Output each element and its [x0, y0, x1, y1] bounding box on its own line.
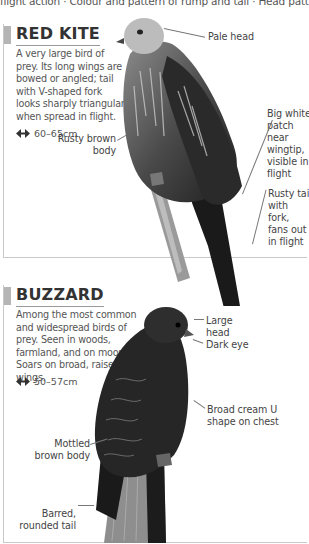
annotation-mottled-body: Mottled brown body [24, 438, 90, 462]
annotation-rusty-brown-body: Rusty brown body [56, 133, 116, 157]
annotation-large-head: Large head [206, 315, 236, 339]
species-title: BUZZARD [16, 285, 104, 307]
annotation-dark-eye: Dark eye [206, 339, 249, 351]
annotation-rusty-tail: Rusty tail with fork, fans out in flight [268, 188, 309, 248]
wingspan-value: 50–57cm [34, 376, 77, 387]
species-title: RED KITE [16, 24, 100, 46]
section-marker [4, 26, 11, 44]
leader-line [194, 319, 204, 320]
annotation-cream-u-shape: Broad cream U shape on chest [207, 404, 307, 428]
red-kite-illustration [112, 16, 262, 306]
annotation-barred-tail: Barred, rounded tail [14, 508, 76, 532]
wingspan-size: 50–57cm [16, 376, 77, 387]
wingspan-arrows-icon [16, 377, 30, 386]
buzzard-panel: BUZZARD Among the most common and widesp… [3, 285, 307, 543]
wingspan-arrows-icon [16, 129, 30, 138]
buzzard-illustration [86, 305, 206, 543]
annotation-white-wing-patch: Big white patch near wingtip, visible in… [267, 108, 309, 180]
section-marker [4, 287, 11, 305]
cutoff-header-text: flight action · Colour and pattern of ru… [0, 0, 309, 7]
red-kite-panel: RED KITE A very large bird of prey. Its … [3, 24, 307, 258]
annotation-pale-head: Pale head [208, 31, 254, 43]
leader-line [78, 505, 94, 506]
